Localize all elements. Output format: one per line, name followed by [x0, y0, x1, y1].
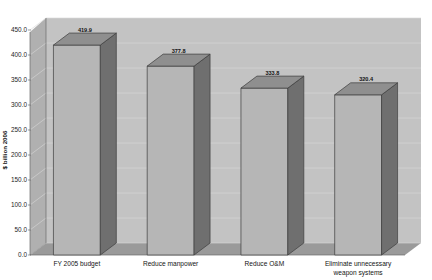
bar-value-label: 377.8	[172, 48, 186, 54]
y-tick-label: 0.0	[18, 251, 27, 258]
bar-value-label: 333.8	[265, 70, 279, 76]
y-tick-label: 250.0	[11, 126, 27, 133]
y-tick-label: 450.0	[11, 26, 27, 33]
y-tick-label: 350.0	[11, 76, 27, 83]
bar-chart: 0.050.0100.0150.0200.0250.0300.0350.0400…	[0, 0, 432, 280]
bar-front-face	[53, 45, 100, 255]
bar-front-face	[241, 88, 288, 255]
x-category-label: Reduce manpower	[143, 260, 199, 268]
y-tick-label: 100.0	[11, 201, 27, 208]
chart-canvas: 0.050.0100.0150.0200.0250.0300.0350.0400…	[0, 0, 432, 280]
bar-front-face	[335, 95, 382, 255]
x-category-label: FY 2005 budget	[53, 260, 100, 268]
x-category-label: Reduce O&M	[245, 260, 285, 267]
bar-value-label: 320.4	[359, 76, 374, 82]
y-tick-label: 50.0	[15, 226, 28, 233]
bar-front-face	[147, 66, 194, 255]
y-tick-label: 300.0	[11, 101, 27, 108]
bar-side-face	[194, 54, 210, 255]
y-tick-label: 400.0	[11, 51, 27, 58]
bar-side-face	[382, 83, 398, 255]
y-tick-label: 200.0	[11, 151, 27, 158]
bar-value-label: 419.9	[78, 27, 92, 33]
y-tick-label: 150.0	[11, 176, 27, 183]
bar-side-face	[100, 33, 116, 255]
x-category-label: weapon systems	[333, 269, 384, 277]
bar-side-face	[288, 76, 304, 255]
y-axis-title: $ billion 2006	[1, 130, 8, 169]
x-category-label: Eliminate unnecessary	[325, 260, 392, 268]
